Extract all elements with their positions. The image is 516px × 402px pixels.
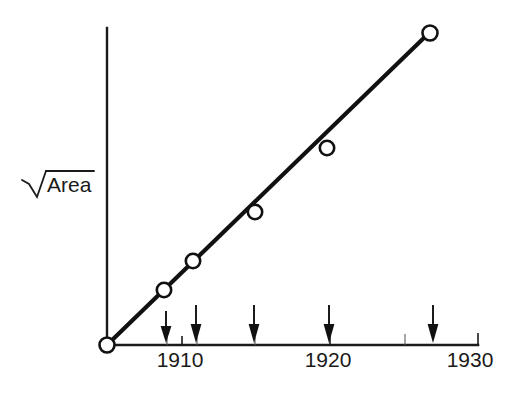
- data-point: [320, 141, 334, 155]
- data-point: [423, 26, 438, 41]
- event-arrow: [191, 305, 202, 343]
- data-series-line: [107, 32, 430, 345]
- x-tick-label-1930: 1930: [447, 348, 494, 371]
- y-axis-title: Area: [22, 171, 94, 197]
- x-tick-label-1920: 1920: [305, 348, 352, 371]
- x-axis-minor-ticks: [167, 334, 405, 345]
- y-axis-title-text: Area: [47, 173, 92, 196]
- data-point: [186, 254, 200, 268]
- event-arrow: [428, 305, 439, 343]
- chart-canvas: 1910 1920 1930 Area: [0, 0, 516, 402]
- data-point: [157, 283, 171, 297]
- event-arrow: [161, 311, 172, 343]
- data-point: [100, 338, 115, 353]
- chart-figure: 1910 1920 1930 Area: [0, 0, 516, 402]
- event-arrow: [249, 305, 260, 343]
- event-arrow-markers: [161, 305, 439, 343]
- x-tick-label-1910: 1910: [157, 348, 204, 371]
- event-arrow: [324, 305, 335, 343]
- data-point: [248, 205, 262, 219]
